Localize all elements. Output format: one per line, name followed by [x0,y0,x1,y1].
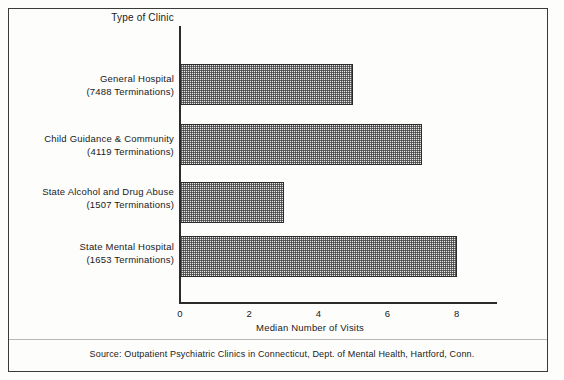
x-tick-label-3: 6 [385,308,390,319]
plot-area: Type of Clinic General Hospital (7488 Te… [0,0,564,380]
category-label-0: General Hospital (7488 Terminations) [0,72,174,98]
chart-figure: Type of Clinic General Hospital (7488 Te… [0,0,564,380]
category-label-2: State Alcohol and Drug Abuse (1507 Termi… [0,185,174,211]
bar-state-mental-hospital [180,236,457,277]
x-axis-title: Median Number of Visits [0,322,564,333]
category-name-1: Child Guidance & Community [44,133,174,144]
category-name-0: General Hospital [100,73,174,84]
category-sublabel-0: (7488 Terminations) [0,85,174,98]
y-axis-title: Type of Clinic [111,12,174,23]
source-note: Source: Outpatient Psychiatric Clinics i… [0,349,564,359]
category-label-3: State Mental Hospital (1653 Terminations… [0,240,174,266]
x-tick-label-0: 0 [177,308,182,319]
category-name-3: State Mental Hospital [80,241,175,252]
source-divider [9,339,547,340]
bar-state-alcohol-drug-abuse [180,182,284,223]
bar-child-guidance-community [180,124,422,165]
bar-general-hospital [180,64,353,105]
category-sublabel-1: (4119 Terminations) [0,145,174,158]
category-sublabel-2: (1507 Terminations) [0,198,174,211]
x-tick-label-2: 4 [316,308,321,319]
x-tick-label-1: 2 [246,308,251,319]
category-sublabel-3: (1653 Terminations) [0,253,174,266]
category-label-1: Child Guidance & Community (4119 Termina… [0,132,174,158]
x-tick-label-4: 8 [454,308,459,319]
category-name-2: State Alcohol and Drug Abuse [42,186,174,197]
x-axis-line [179,302,497,304]
